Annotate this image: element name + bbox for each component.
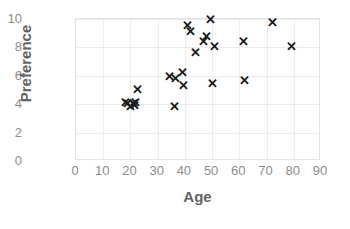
x-tick-label: 60 (231, 163, 245, 178)
y-axis-title: Preference (17, 0, 34, 129)
x-tick-label: 70 (258, 163, 272, 178)
x-tick-label: 80 (286, 163, 300, 178)
y-tick-label: 0 (15, 153, 22, 168)
scatter-chart: ✕✕✕✕✕✕✕✕✕✕✕✕✕✕✕✕✕✕✕✕✕✕✕✕ 0246810 0102030… (0, 0, 350, 229)
x-tick-label: 30 (149, 163, 163, 178)
x-tick-label: 90 (313, 163, 327, 178)
x-axis-title: Age (75, 188, 320, 205)
x-tick-label: 10 (95, 163, 109, 178)
x-tick-label: 40 (177, 163, 191, 178)
x-tick-label: 50 (204, 163, 218, 178)
x-tick-label: 20 (122, 163, 136, 178)
x-tick-label: 0 (71, 163, 78, 178)
